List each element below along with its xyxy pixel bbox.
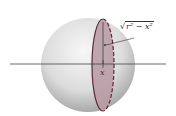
leader-dot	[104, 44, 106, 46]
radicand: r² − x²	[125, 21, 154, 31]
x-label: x	[100, 68, 105, 77]
sphere-diagram	[0, 0, 176, 116]
sphere	[41, 18, 135, 112]
radius-expression-label: √r² − x²	[120, 21, 154, 31]
